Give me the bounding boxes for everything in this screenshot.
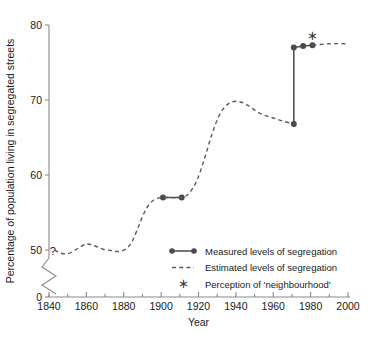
chart-canvas: 0506070801840186018801900192019401960198… — [0, 0, 368, 342]
x-tick-label-1980: 1980 — [299, 300, 323, 312]
y-tick-label-70: 70 — [30, 94, 42, 106]
series-path-3 — [312, 44, 348, 46]
x-tick-label-1880: 1880 — [112, 300, 136, 312]
y-tick-label-60: 60 — [30, 169, 42, 181]
annotation-question-mark: ? — [50, 245, 56, 257]
legend-dot-right — [191, 248, 197, 254]
legend-label-1: Estimated levels of segregation — [205, 262, 337, 273]
legend-marker-star: ∗ — [178, 276, 189, 291]
y-tick-label-50: 50 — [30, 244, 42, 256]
annotation-star: ∗ — [307, 28, 318, 43]
x-tick-label-1940: 1940 — [224, 300, 248, 312]
annotations-group: ?∗ — [50, 28, 318, 257]
x-tick-label-1960: 1960 — [262, 300, 286, 312]
segregation-line-chart: 0506070801840186018801900192019401960198… — [0, 0, 368, 342]
data-series-group — [55, 42, 348, 254]
x-tick-label-1920: 1920 — [187, 300, 211, 312]
data-point-1-1 — [291, 45, 297, 51]
legend-dot-left — [169, 248, 175, 254]
x-tick-label-1840: 1840 — [37, 300, 61, 312]
series-path-2 — [55, 101, 294, 254]
y-tick-label-80: 80 — [30, 19, 42, 31]
y-axis-break-zigzag — [42, 258, 56, 294]
x-tick-label-2000: 2000 — [336, 300, 360, 312]
chart-legend: Measured levels of segregationEstimated … — [169, 246, 337, 291]
series-path-1 — [294, 45, 313, 124]
data-point-1-2 — [300, 43, 306, 49]
x-tick-label-1900: 1900 — [149, 300, 173, 312]
y-axis-title: Percentage of population living in segre… — [4, 39, 16, 284]
legend-label-0: Measured levels of segregation — [205, 246, 337, 257]
legend-label-2: Perception of 'neighbourhood' — [205, 279, 331, 290]
x-axis-title: Year — [188, 316, 210, 328]
x-tick-label-1860: 1860 — [75, 300, 99, 312]
